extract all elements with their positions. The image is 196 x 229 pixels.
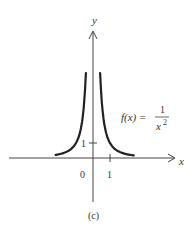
function-label-numerator: 1 xyxy=(160,104,165,115)
y-tick-label-1: 1 xyxy=(81,138,86,149)
origin-label: 0 xyxy=(80,169,85,180)
figure-caption: (c) xyxy=(88,210,99,222)
chart-figure: y x 1 1 0 f(x) = 1 x 2 (c) xyxy=(0,0,196,229)
function-label-exponent: 2 xyxy=(163,118,167,127)
y-axis-label: y xyxy=(91,14,97,26)
x-axis-label: x xyxy=(178,155,184,167)
x-tick-label-1: 1 xyxy=(107,169,112,180)
function-label-denominator: x xyxy=(155,120,161,132)
function-label-lhs: f(x) = xyxy=(121,111,146,124)
